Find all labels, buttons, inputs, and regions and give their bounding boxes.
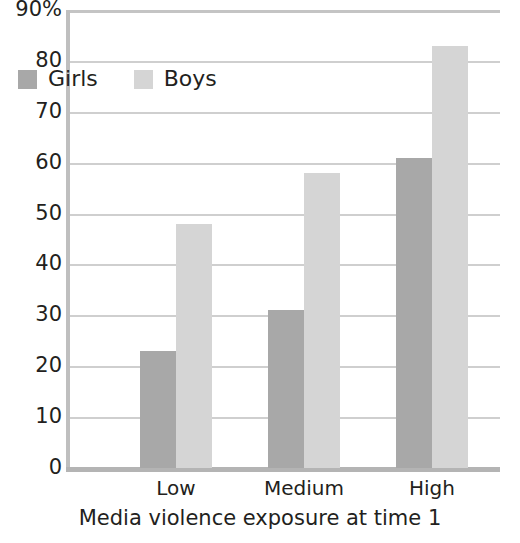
y-axis-tick-label: 20	[0, 355, 62, 376]
y-axis-tick-label: 70	[0, 101, 62, 122]
chart-legend: GirlsBoys	[18, 62, 217, 96]
bar-chart-figure: 0102030405060708090% GirlsBoys LowMedium…	[0, 0, 520, 543]
y-axis-tick-label: 90%	[0, 0, 62, 20]
bar	[304, 173, 340, 468]
y-axis-tick-label: 50	[0, 203, 62, 224]
gridline	[70, 10, 500, 13]
bar	[140, 351, 176, 468]
y-axis-tick-label: 60	[0, 152, 62, 173]
y-axis-tick-label: 0	[0, 457, 62, 478]
legend-label: Girls	[48, 68, 98, 90]
x-axis-title: Media violence exposure at time 1	[0, 508, 520, 529]
legend-swatch-icon	[18, 70, 37, 89]
y-axis-tick-label: 40	[0, 253, 62, 274]
legend-item-girls[interactable]: Girls	[18, 68, 98, 90]
legend-label: Boys	[164, 68, 217, 90]
legend-swatch-icon	[134, 70, 153, 89]
bar	[396, 158, 432, 468]
bar	[432, 46, 468, 468]
x-axis-tick-label: High	[352, 478, 512, 498]
legend-item-boys[interactable]: Boys	[134, 68, 217, 90]
y-axis-tick-label: 30	[0, 304, 62, 325]
bar	[268, 310, 304, 468]
y-axis-tick-label: 10	[0, 406, 62, 427]
bar	[176, 224, 212, 468]
